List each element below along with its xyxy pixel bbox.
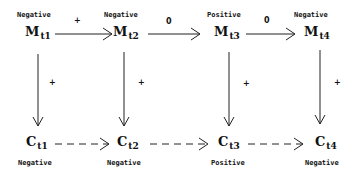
node-ct2-subscript: t2 bbox=[128, 141, 138, 151]
node-ct1-subscript: t1 bbox=[37, 141, 47, 151]
causal-diagram: Negative Negative Positive Negative Mt1 … bbox=[0, 0, 358, 179]
node-mt4-symbol: M bbox=[304, 24, 318, 39]
node-mt2-symbol: M bbox=[113, 24, 127, 39]
node-mt1: Mt1 bbox=[25, 25, 51, 40]
sign-mt2-mt3: 0 bbox=[166, 17, 172, 26]
node-mt4: Mt4 bbox=[304, 25, 330, 40]
arrow-ct3-ct4 bbox=[248, 138, 303, 150]
state-ct3: Positive bbox=[211, 159, 245, 167]
arrow-mt2-mt3 bbox=[148, 28, 200, 40]
sign-mt3-mt4: 0 bbox=[264, 16, 270, 25]
arrow-ct1-ct2 bbox=[55, 138, 109, 150]
sign-mt1-mt2: + bbox=[74, 16, 81, 25]
node-mt1-symbol: M bbox=[25, 24, 39, 39]
node-ct3-symbol: C bbox=[218, 134, 228, 149]
node-ct3: Ct3 bbox=[218, 135, 240, 150]
sign-mt1-ct1: + bbox=[49, 78, 56, 87]
arrow-mt1-mt2 bbox=[55, 28, 112, 40]
node-ct4: Ct4 bbox=[315, 135, 337, 150]
arrow-mt3-ct3 bbox=[224, 52, 234, 126]
sign-mt2-ct2: + bbox=[138, 78, 145, 87]
node-ct1-symbol: C bbox=[26, 134, 36, 149]
node-ct3-subscript: t3 bbox=[229, 141, 239, 151]
node-ct4-symbol: C bbox=[315, 134, 325, 149]
sign-mt4-ct4: + bbox=[334, 78, 341, 87]
node-mt2: Mt2 bbox=[113, 25, 139, 40]
state-mt2: Negative bbox=[104, 11, 138, 19]
node-mt1-subscript: t1 bbox=[40, 31, 50, 41]
arrow-mt2-ct2 bbox=[119, 52, 129, 126]
state-mt4: Negative bbox=[294, 11, 328, 19]
node-mt3-subscript: t3 bbox=[229, 31, 239, 41]
node-ct1: Ct1 bbox=[26, 135, 48, 150]
state-ct1: Negative bbox=[18, 159, 52, 167]
arrow-mt3-mt4 bbox=[246, 28, 295, 40]
sign-mt3-ct3: + bbox=[243, 79, 250, 88]
node-ct4-subscript: t4 bbox=[326, 141, 336, 151]
arrow-mt1-ct1 bbox=[33, 54, 43, 126]
node-mt3-symbol: M bbox=[214, 24, 228, 39]
node-mt3: Mt3 bbox=[214, 25, 240, 40]
state-mt3: Positive bbox=[207, 11, 241, 19]
node-mt2-subscript: t2 bbox=[128, 31, 138, 41]
node-ct2-symbol: C bbox=[117, 134, 127, 149]
state-ct4: Negative bbox=[305, 159, 339, 167]
arrow-ct2-ct3 bbox=[150, 138, 208, 150]
node-ct2: Ct2 bbox=[117, 135, 139, 150]
state-ct2: Negative bbox=[107, 159, 141, 167]
arrow-mt4-ct4 bbox=[315, 50, 325, 124]
node-mt4-subscript: t4 bbox=[319, 31, 329, 41]
state-mt1: Negative bbox=[17, 11, 51, 19]
